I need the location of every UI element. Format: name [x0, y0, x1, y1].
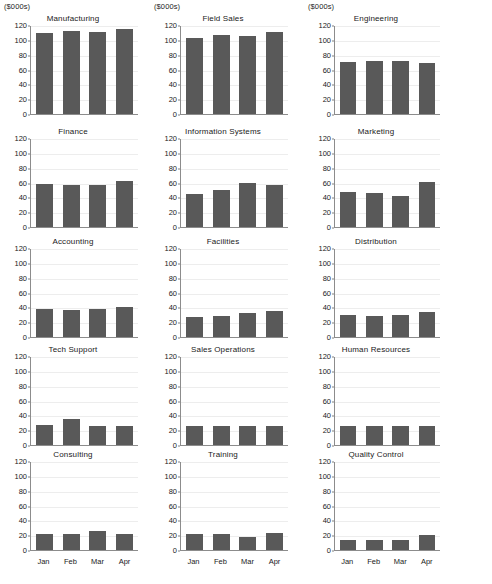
y-axis-tick-label: 120	[14, 353, 27, 361]
chart-panel: Accounting020406080100120	[0, 235, 150, 345]
plot-box	[334, 139, 440, 228]
x-axis-tick-label: Apr	[261, 557, 288, 566]
y-axis-tick-label: 120	[164, 22, 177, 30]
y-axis-tick-label: 40	[323, 413, 331, 421]
y-axis-tick-label: 20	[169, 319, 177, 327]
x-axis-tick-label: Mar	[234, 557, 261, 566]
y-axis-tick-label: 80	[19, 383, 27, 391]
y-axis-tick-label: 100	[14, 37, 27, 45]
plot-box	[180, 139, 288, 228]
y-axis-tick-label: 60	[169, 503, 177, 511]
y-axis-tick-label: 20	[19, 319, 27, 327]
chart-panel: Finance020406080100120	[0, 125, 150, 235]
y-axis-tick-label: 60	[19, 67, 27, 75]
bar-series	[335, 462, 440, 550]
bar	[89, 32, 106, 114]
y-axis-tick-label: 80	[19, 275, 27, 283]
y-axis-tick-label: 60	[323, 290, 331, 298]
chart-panel-title: Engineering	[312, 14, 440, 23]
bar-slot	[208, 139, 235, 227]
y-axis: 020406080100120	[158, 249, 180, 338]
plot-box	[30, 249, 138, 338]
bar-slot	[58, 357, 85, 445]
y-axis-tick-label: 60	[169, 290, 177, 298]
bar-slot	[235, 357, 262, 445]
bar	[239, 313, 256, 337]
chart-panel: ($000s)Field Sales020406080100120	[150, 0, 300, 125]
x-axis-tick-label: Jan	[30, 557, 57, 566]
y-axis-tick-label: 80	[323, 52, 331, 60]
y-axis-tick-label: 120	[318, 245, 331, 253]
bar	[239, 537, 256, 550]
chart-plot-area: 020406080100120	[158, 26, 288, 115]
chart-panel-title: Distribution	[312, 237, 440, 246]
bar-series	[181, 462, 288, 550]
chart-panel: Information Systems020406080100120	[150, 125, 300, 235]
y-axis-tick-label: 120	[318, 353, 331, 361]
bar-slot	[181, 26, 208, 114]
bar	[366, 316, 383, 338]
bar-slot	[208, 249, 235, 337]
bar-slot	[361, 26, 387, 114]
y-axis-tick-label: 20	[323, 96, 331, 104]
bar	[366, 540, 383, 550]
y-axis-tick-label: 80	[323, 383, 331, 391]
bar-series	[335, 357, 440, 445]
y-axis-tick-label: 100	[164, 37, 177, 45]
chart-panel-title: Information Systems	[158, 127, 288, 136]
bar	[63, 310, 80, 337]
y-axis-tick-label: 0	[23, 547, 27, 555]
bar	[116, 181, 133, 227]
bar-slot	[111, 139, 138, 227]
plot-box	[30, 462, 138, 551]
y-axis-tick-label: 20	[19, 209, 27, 217]
chart-panel: Consulting020406080100120JanFebMarApr	[0, 450, 150, 584]
bar-slot	[85, 462, 112, 550]
small-multiples-chart-grid: ($000s)Manufacturing020406080100120($000…	[0, 0, 492, 584]
bar	[186, 194, 203, 227]
bar	[266, 426, 283, 445]
chart-plot-area: 020406080100120	[312, 249, 440, 338]
y-axis-tick-label: 0	[23, 442, 27, 450]
plot-box	[180, 357, 288, 446]
x-axis-tick-label: Feb	[57, 557, 84, 566]
y-axis-tick-label: 100	[318, 260, 331, 268]
chart-panel: Human Resources020406080100120	[300, 345, 492, 450]
y-axis-tick-label: 0	[327, 334, 331, 342]
chart-panel-title: Finance	[8, 127, 138, 136]
bar	[89, 185, 106, 227]
x-axis-tick-label: Feb	[207, 557, 234, 566]
bar-slot	[181, 357, 208, 445]
y-axis-tick-label: 60	[323, 67, 331, 75]
y-axis-tick-label: 40	[169, 305, 177, 313]
y-axis-tick-label: 60	[19, 398, 27, 406]
bar-slot	[261, 357, 288, 445]
y-axis-tick-label: 80	[169, 383, 177, 391]
chart-panel-title: Accounting	[8, 237, 138, 246]
bar-slot	[388, 462, 414, 550]
bar	[392, 426, 409, 445]
bar-slot	[414, 139, 440, 227]
chart-plot-area: 020406080100120	[8, 249, 138, 338]
y-axis-tick-label: 80	[169, 52, 177, 60]
y-axis-tick-label: 100	[318, 368, 331, 376]
bar	[340, 62, 357, 114]
bar	[186, 38, 203, 114]
y-axis-units-label: ($000s)	[154, 2, 180, 11]
y-axis-tick-label: 60	[323, 398, 331, 406]
y-axis: 020406080100120	[8, 249, 30, 338]
y-axis-tick-label: 0	[173, 442, 177, 450]
chart-plot-area: 020406080100120	[312, 139, 440, 228]
bar-slot	[388, 139, 414, 227]
bar-slot	[31, 139, 58, 227]
bar	[213, 316, 230, 337]
bar-slot	[235, 249, 262, 337]
bar-slot	[361, 462, 387, 550]
y-axis-tick-label: 120	[164, 135, 177, 143]
y-axis-tick-label: 120	[14, 245, 27, 253]
bar-slot	[85, 357, 112, 445]
bar-slot	[335, 26, 361, 114]
y-axis-tick-label: 100	[164, 150, 177, 158]
y-axis-tick-label: 20	[169, 96, 177, 104]
chart-plot-area: 020406080100120	[8, 462, 138, 551]
